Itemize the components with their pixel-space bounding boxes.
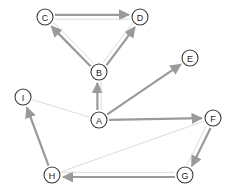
graph-diagram: CDEBIFAHG	[0, 0, 231, 196]
edge-f-to-g	[192, 128, 211, 166]
node-f[interactable]: F	[205, 110, 221, 126]
edges-layer	[27, 15, 211, 177]
node-e[interactable]: E	[182, 50, 198, 66]
node-label-h: H	[49, 171, 56, 181]
edge-b-to-d	[103, 23, 133, 63]
node-h[interactable]: H	[44, 167, 60, 183]
node-g[interactable]: G	[177, 167, 193, 183]
edge-b-to-c	[53, 22, 94, 63]
node-label-b: B	[96, 68, 102, 78]
node-c[interactable]: C	[37, 9, 53, 25]
node-label-c: C	[42, 13, 49, 23]
edge-a-to-e	[107, 64, 180, 114]
edge-b-to-c	[51, 26, 90, 66]
node-b[interactable]: B	[91, 64, 107, 80]
node-label-f: F	[210, 114, 216, 124]
edge-f-to-g	[187, 126, 207, 166]
node-label-i: I	[22, 93, 25, 103]
edge-a-to-f	[109, 118, 202, 120]
node-label-g: G	[181, 171, 188, 181]
node-d[interactable]: D	[132, 9, 148, 25]
node-i[interactable]: I	[15, 89, 31, 105]
edge-b-to-d	[107, 27, 135, 65]
edge-a-to-i	[32, 100, 90, 117]
node-label-a: A	[96, 116, 102, 126]
edge-h-to-i	[27, 107, 49, 165]
node-a[interactable]: A	[91, 112, 107, 128]
node-label-d: D	[137, 13, 144, 23]
edge-h-to-f	[61, 121, 204, 172]
node-label-e: E	[187, 54, 193, 64]
